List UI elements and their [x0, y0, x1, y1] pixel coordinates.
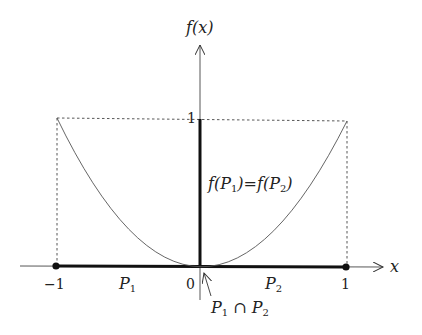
tick-x-neg-one: −1 [44, 276, 65, 292]
label-p2: P2 [264, 274, 282, 294]
function-diagram: f(x) x 1 −1 0 1 P1 P2 f(P1)=f(P2) P1 ∩ P… [0, 0, 422, 335]
parabola-curve [57, 118, 347, 267]
intersection-arrow [204, 273, 211, 296]
tick-x-zero: 0 [186, 276, 195, 292]
endpoint-dot-right [342, 263, 349, 270]
endpoint-dot-left [52, 262, 59, 269]
label-p1: P1 [118, 274, 136, 294]
tick-y-one: 1 [187, 110, 196, 126]
dashed-guides [57, 118, 347, 266]
y-axis-label: f(x) [185, 18, 213, 37]
x-axis-label: x [390, 257, 399, 276]
tick-x-one: 1 [341, 276, 350, 292]
image-label: f(P1)=f(P2) [207, 174, 293, 194]
guide-top [57, 118, 347, 121]
intersection-label: P1 ∩ P2 [210, 298, 269, 318]
